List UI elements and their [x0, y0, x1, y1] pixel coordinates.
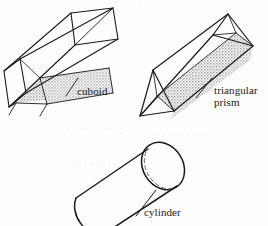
- cuboid-edge-top-front: [4, 13, 71, 71]
- cuboid-diagonal-far: [75, 8, 113, 45]
- label-triangular-prism-line1: triangular: [214, 84, 258, 96]
- cuboid-edge-top-back: [20, 8, 113, 59]
- cuboid-bottom-tail-2: [40, 104, 47, 116]
- cylinder-far-end-cap: [133, 134, 193, 198]
- cylinder-near-end-cap: [75, 198, 104, 226]
- geometry-figure: cuboid triangular prism cylinder: [0, 0, 268, 226]
- cuboid-inner-edge-c: [16, 103, 47, 104]
- solids-line-drawing: [0, 0, 268, 226]
- cylinder-edge-upper: [76, 149, 148, 198]
- shape-cuboid: [4, 8, 118, 116]
- label-triangular-prism: triangular prism: [214, 84, 258, 108]
- label-triangular-prism-line2: prism: [214, 96, 258, 108]
- cylinder-hidden-arc: [144, 152, 170, 189]
- prism-far-hidden-edge-2: [213, 33, 236, 35]
- label-cuboid: cuboid: [77, 85, 108, 97]
- label-cylinder: cylinder: [144, 206, 181, 218]
